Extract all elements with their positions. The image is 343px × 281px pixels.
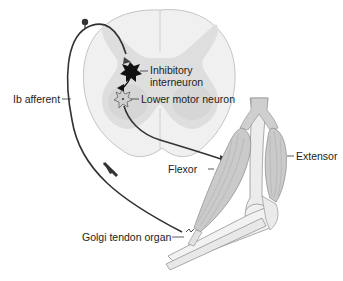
golgi-tendon-reflex-diagram: Inhibitory interneuron Lower motor neuro… [0,0,343,281]
extensor-muscle [265,128,294,202]
golgi-tendon-organ-icon [186,229,194,232]
forearm-ulna [166,218,266,270]
label-flexor: Flexor [168,163,198,175]
label-interneuron: interneuron [150,76,203,88]
motor-neuron-nucleus [122,98,124,100]
dorsal-root-ganglion-icon [82,19,88,25]
label-inhibitory: Inhibitory [150,64,193,76]
extensor-muscle-body [265,128,286,202]
label-golgi-tendon-organ: Golgi tendon organ [82,231,171,243]
label-extensor: Extensor [296,150,338,162]
arrow-shaft [104,163,117,176]
label-ib-afferent: Ib afferent [13,93,60,105]
label-lower-motor-neuron: Lower motor neuron [141,93,235,105]
